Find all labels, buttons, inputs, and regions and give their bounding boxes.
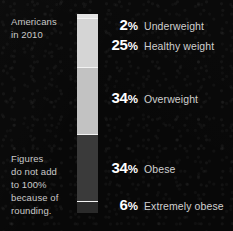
label-row-underweight: 2%Underweight [104,16,204,33]
percent-value: 34% [104,159,138,176]
percent-value: 25% [104,36,138,53]
label-row-extremely-obese: 6%Extremely obese [104,196,224,213]
weight-distribution-infographic: Americans in 2010 Figures do not add to … [0,0,233,231]
percent-symbol: % [128,200,138,212]
caption-rounding-note: Figures do not add to 100% because of ro… [11,152,71,217]
bar-segment-obese [77,134,98,201]
percent-value: 6% [104,196,138,213]
label-row-overweight: 34%Overweight [104,89,198,106]
percent-symbol: % [128,163,138,175]
bar-segment-overweight [77,67,98,134]
caption-population-year: Americans in 2010 [11,15,73,41]
category-label: Overweight [144,93,198,105]
category-label: Healthy weight [144,40,214,52]
category-label: Extremely obese [144,200,224,212]
bar-segment-healthy-weight [77,18,98,67]
percent-value: 2% [104,16,138,33]
percent-value: 34% [104,89,138,106]
bar-segment-extremely-obese [77,201,98,213]
label-row-healthy-weight: 25%Healthy weight [104,36,214,53]
category-label: Underweight [144,20,204,32]
label-row-obese: 34%Obese [104,159,175,176]
stacked-bar-chart [77,14,98,213]
percent-symbol: % [128,20,138,32]
percent-symbol: % [128,93,138,105]
category-label: Obese [144,163,175,175]
percent-symbol: % [128,40,138,52]
